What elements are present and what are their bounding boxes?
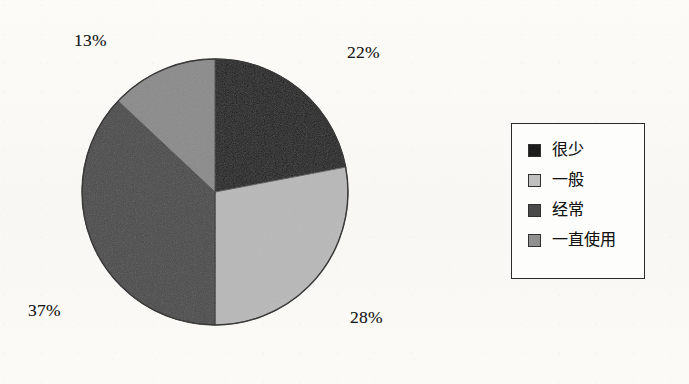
legend-item-yizhi-shiyong[interactable]: 一直使用 (528, 225, 644, 255)
legend-swatch-icon (528, 174, 541, 187)
legend-item-label: 经常 (552, 202, 584, 218)
legend-item-label: 一般 (552, 172, 584, 188)
legend-item-jingchang[interactable]: 经常 (528, 195, 644, 225)
chart-legend: 很少 一般 经常 一直使用 (511, 123, 645, 279)
legend-swatch-icon (528, 234, 541, 247)
pie-chart-svg (0, 0, 470, 384)
chart-page: 22% 28% 37% 13% 很少 一般 经常 一直使用 (0, 0, 689, 384)
pie-slice-group (82, 59, 348, 325)
pie-label-22: 22% (347, 42, 380, 63)
pie-label-37: 37% (28, 300, 61, 321)
legend-item-hen-shao[interactable]: 很少 (528, 135, 644, 165)
pie-chart-figure: 22% 28% 37% 13% (0, 0, 470, 384)
legend-item-label: 一直使用 (552, 232, 616, 248)
pie-label-28: 28% (350, 307, 383, 328)
pie-label-13: 13% (74, 30, 107, 51)
legend-item-label: 很少 (552, 142, 584, 158)
legend-item-yiban[interactable]: 一般 (528, 165, 644, 195)
pie-slice-yiban[interactable] (215, 167, 348, 325)
legend-swatch-icon (528, 204, 541, 217)
legend-swatch-icon (528, 144, 541, 157)
